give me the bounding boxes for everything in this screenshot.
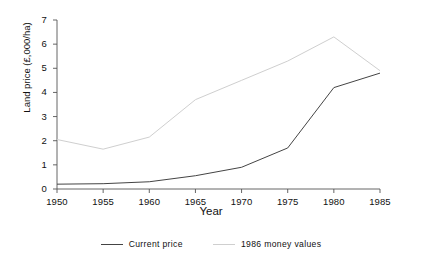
- y-tick-label: 7: [31, 14, 47, 25]
- y-tick-label: 6: [31, 38, 47, 49]
- plot-area: [0, 0, 422, 271]
- y-tick-label: 5: [31, 62, 47, 73]
- legend-label-1986-money-values: 1986 money values: [241, 239, 321, 249]
- y-tick-label: 0: [31, 183, 47, 194]
- x-axis-title: Year: [0, 205, 422, 217]
- y-tick-label: 2: [31, 135, 47, 146]
- legend-label-current-price: Current price: [129, 239, 183, 249]
- line-chart-svg: [0, 0, 422, 271]
- y-tick-label: 4: [31, 86, 47, 97]
- y-axis-ticks: [53, 20, 57, 189]
- series-line-1986-money-values: [57, 37, 380, 149]
- legend-swatch-current-price: [101, 244, 123, 245]
- legend-item-current-price: Current price: [101, 239, 183, 249]
- chart-legend: Current price 1986 money values: [0, 239, 422, 249]
- x-axis-ticks: [57, 189, 380, 193]
- legend-item-1986-money-values: 1986 money values: [213, 239, 321, 249]
- y-axis-title: Land price (£,000/ha): [21, 0, 32, 148]
- y-tick-label: 1: [31, 159, 47, 170]
- y-tick-label: 3: [31, 111, 47, 122]
- data-series-layer: [57, 37, 380, 184]
- legend-swatch-1986-money-values: [213, 244, 235, 245]
- chart-figure: 01234567 1950195519601965197019751980198…: [0, 0, 422, 271]
